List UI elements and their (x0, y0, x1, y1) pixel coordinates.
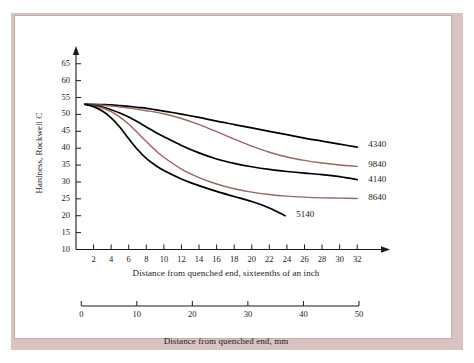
y-tick-label: 65 (50, 58, 70, 68)
series-label-4340: 4340 (368, 139, 386, 149)
curve-8640 (85, 104, 357, 198)
mm-tick-label: 40 (293, 309, 313, 319)
y-tick-label: 55 (50, 92, 70, 102)
curve-4340 (85, 104, 357, 147)
x-axis-label-mm: Distance from quenched end, mm (76, 336, 376, 346)
y-tick-label: 25 (50, 193, 70, 203)
curve-5140 (85, 104, 285, 215)
mm-tick-label: 30 (238, 309, 258, 319)
x-tick-label: 32 (347, 254, 367, 264)
y-tick-label: 60 (50, 75, 70, 85)
y-tick-label: 15 (50, 227, 70, 237)
y-tick-label: 10 (50, 244, 70, 254)
y-tick-label: 40 (50, 142, 70, 152)
figure-page: Hardness, Rockwell C Distance from quenc… (0, 0, 474, 363)
series-label-8640: 8640 (368, 192, 386, 202)
mm-tick-label: 50 (349, 309, 369, 319)
y-axis-label: Hardness, Rockwell C (34, 93, 44, 213)
y-tick-label: 30 (50, 176, 70, 186)
mm-tick-label: 10 (127, 309, 147, 319)
y-tick-label: 20 (50, 210, 70, 220)
series-label-4140: 4140 (368, 174, 386, 184)
y-tick-label: 45 (50, 125, 70, 135)
y-axis-arrowhead (73, 46, 79, 55)
mm-tick-label: 0 (71, 309, 91, 319)
series-label-5140: 5140 (296, 209, 314, 219)
y-tick-label: 35 (50, 159, 70, 169)
x-axis-label-inches: Distance from quenched end, sixteenths o… (76, 268, 376, 278)
mm-tick-label: 20 (182, 309, 202, 319)
curve-4140 (85, 104, 357, 179)
y-tick-label: 50 (50, 108, 70, 118)
series-label-9840: 9840 (368, 159, 386, 169)
x-axis-arrowhead (381, 246, 390, 252)
